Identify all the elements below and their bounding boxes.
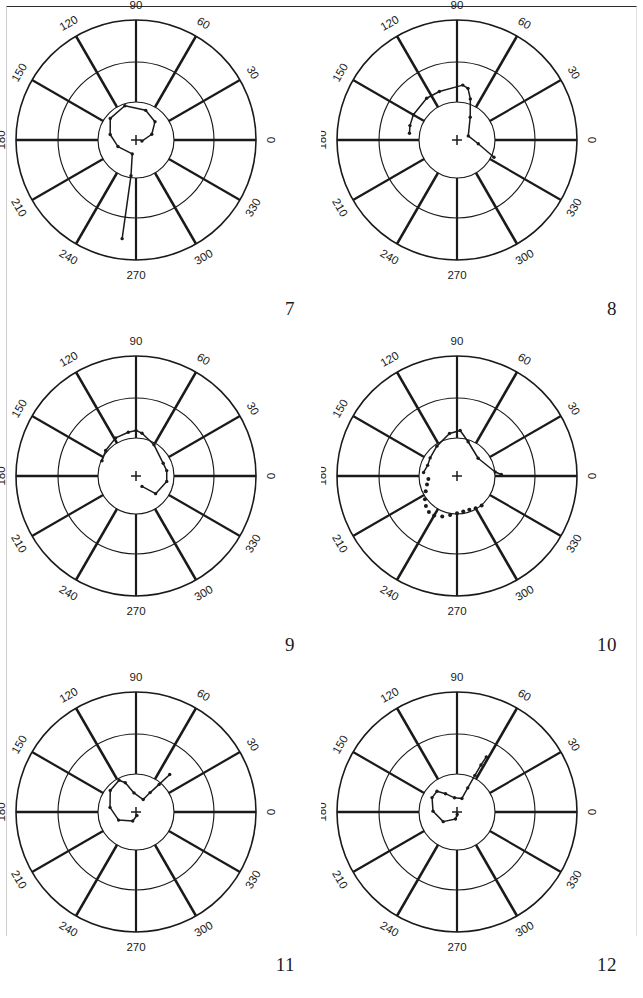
spoke-300: [476, 173, 517, 244]
trace-point-3: [165, 469, 168, 472]
trace-point-10: [442, 820, 445, 823]
trace-dot-8: [448, 513, 452, 517]
angle-label-60: 60: [195, 687, 212, 704]
trace-dot-6: [432, 513, 436, 517]
angle-label-270: 270: [447, 605, 466, 617]
spoke-150: [353, 416, 424, 457]
spoke-210: [32, 159, 103, 200]
angle-label-300: 300: [192, 583, 215, 603]
spoke-240: [397, 845, 438, 916]
spoke-150: [32, 80, 103, 121]
trace-point-7: [438, 90, 441, 93]
spoke-210: [353, 495, 424, 536]
angle-label-0: 0: [586, 137, 598, 143]
trace-dot-9: [455, 511, 459, 515]
trace-point-7: [109, 789, 112, 792]
trace-point-2: [473, 774, 476, 777]
trace-point-12: [456, 813, 459, 816]
angle-label-180: 180: [321, 466, 328, 485]
trace-point-4: [108, 133, 111, 136]
center-plus-icon: [131, 471, 141, 481]
polar-panel-7[interactable]: 0306090120150180210240270300330 7: [0, 0, 321, 336]
angle-label-120: 120: [378, 13, 401, 33]
trace-point-0: [140, 485, 143, 488]
polar-chart-7: 0306090120150180210240270300330: [0, 0, 321, 336]
trace-point-2: [131, 152, 134, 155]
angle-label-0: 0: [265, 473, 277, 479]
trace-point-8: [425, 97, 428, 100]
trace-dot-5: [427, 510, 431, 514]
spoke-330: [169, 495, 240, 536]
angle-label-90: 90: [130, 0, 143, 11]
angle-label-150: 150: [330, 61, 350, 84]
polar-chart-12: 0306090120150180210240270300330: [321, 672, 643, 998]
spoke-240: [76, 845, 117, 916]
spoke-210: [353, 159, 424, 200]
angle-label-120: 120: [57, 13, 80, 33]
trace-point-11: [454, 817, 457, 820]
spoke-120: [76, 708, 117, 779]
trace-point-9: [431, 809, 434, 812]
spoke-60: [476, 708, 517, 779]
angle-label-120: 120: [57, 349, 80, 369]
angle-label-210: 210: [330, 532, 350, 555]
angle-label-240: 240: [378, 583, 401, 603]
polar-panel-9[interactable]: 0306090120150180210240270300330 9: [0, 336, 321, 672]
panel-label-11: 11: [276, 954, 295, 976]
trace-point-9: [422, 471, 425, 474]
angle-label-0: 0: [265, 809, 277, 815]
angle-label-270: 270: [126, 941, 145, 953]
spoke-240: [397, 173, 438, 244]
angle-label-150: 150: [330, 397, 350, 420]
trace-dot-11: [467, 508, 471, 512]
chart-body: 0306090120150180210240270300330: [0, 672, 277, 953]
trace-point-11: [135, 814, 138, 817]
angle-label-300: 300: [513, 919, 536, 939]
trace-point-9: [150, 133, 153, 136]
trace-dot-12: [474, 506, 478, 510]
trace-point-1: [157, 783, 160, 786]
trace-point-3: [116, 145, 119, 148]
angle-label-240: 240: [57, 583, 80, 603]
angle-label-60: 60: [195, 351, 212, 368]
spoke-30: [169, 752, 240, 793]
spoke-330: [490, 831, 561, 872]
trace-point-5: [448, 432, 451, 435]
polar-panel-8[interactable]: 0306090120150180210240270300330 8: [321, 0, 643, 336]
center-plus-icon: [131, 135, 141, 145]
polar-panel-10[interactable]: 0306090120150180210240270300330 10: [321, 336, 643, 672]
spoke-240: [76, 509, 117, 580]
angle-label-90: 90: [130, 672, 143, 683]
trace-point-0: [168, 773, 171, 776]
trace-point-8: [127, 431, 130, 434]
trace-point-10: [104, 449, 107, 452]
panel-label-9: 9: [285, 634, 295, 656]
spoke-300: [476, 509, 517, 580]
angle-label-300: 300: [192, 919, 215, 939]
angle-label-120: 120: [378, 349, 401, 369]
spoke-120: [76, 372, 117, 443]
polar-panel-11[interactable]: 0306090120150180210240270300330 11: [0, 672, 321, 998]
trace-point-0: [500, 473, 503, 476]
trace-dot-1: [425, 483, 429, 487]
panel-label-7: 7: [285, 298, 295, 320]
angle-label-300: 300: [513, 583, 536, 603]
trace-point-2: [467, 134, 470, 137]
trace-point-7: [428, 456, 431, 459]
angle-label-150: 150: [330, 733, 350, 756]
trace-point-11: [408, 132, 411, 135]
panel-label-10: 10: [597, 634, 617, 656]
trace-point-8: [430, 796, 433, 799]
trace-point-5: [453, 796, 456, 799]
trace-point-5: [109, 117, 112, 120]
angle-label-270: 270: [447, 269, 466, 281]
spoke-150: [32, 752, 103, 793]
polar-chart-8: 0306090120150180210240270300330: [321, 0, 643, 336]
trace-point-11: [100, 459, 103, 462]
trace-point-3: [469, 115, 472, 118]
polar-panel-12[interactable]: 0306090120150180210240270300330 12: [321, 672, 643, 998]
chart-body: 0306090120150180210240270300330: [0, 0, 277, 281]
trace-point-3: [466, 440, 469, 443]
angle-label-90: 90: [451, 0, 464, 11]
chart-body: 0306090120150180210240270300330: [321, 336, 598, 617]
